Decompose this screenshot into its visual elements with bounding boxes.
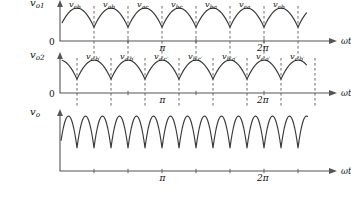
y-axis-arrowhead — [57, 109, 63, 116]
x-axis-title-vo: ωt — [341, 166, 351, 176]
segment-label-vo1-1: vab — [103, 0, 115, 10]
y-axis-label-vo1: vo1 — [30, 0, 45, 10]
segment-label-vo1-3: vbc — [171, 0, 183, 10]
y-axis-arrowhead — [57, 52, 63, 59]
x-axis-title-vo2: ωt — [341, 88, 351, 98]
x-axis-arrowhead — [329, 90, 337, 96]
waveform-trace-v-o2 — [62, 60, 306, 79]
x-axis-arrowhead — [329, 168, 337, 174]
zero-label-vo1: 0 — [49, 37, 55, 47]
x-tick-label-pi: π — [159, 173, 167, 183]
segment-label-vo2-3: vb′c′ — [188, 51, 203, 62]
y-axis-label-vo: vo — [30, 106, 41, 119]
x-tick-label-two-pi: 2π — [256, 95, 270, 105]
segment-label-vo2-0: vc′b′ — [86, 51, 101, 62]
x-tick-label-pi: π — [159, 95, 167, 105]
segment-label-vo2-6: vc′b′ — [290, 51, 305, 62]
zero-label-vo2: 0 — [49, 89, 55, 99]
segment-label-vo1-4: vba — [205, 0, 217, 10]
segment-label-vo1-0: vcb — [69, 0, 81, 10]
waveform-trace-v-o1 — [62, 8, 306, 27]
waveform-figure: vo10π2πωtvcbvabvacvbcvbavcavcbvo20π2πωtv… — [0, 0, 351, 201]
x-axis-arrowhead — [329, 38, 337, 44]
x-tick-label-two-pi: 2π — [256, 173, 270, 183]
waveform-trace-v-o — [61, 116, 308, 148]
segment-label-vo1-6: vcb — [273, 0, 285, 10]
y-axis-label-vo2: vo2 — [30, 49, 45, 62]
x-axis-title-vo1: ωt — [341, 36, 351, 46]
segment-label-vo1-2: vac — [137, 0, 149, 10]
waveform-svg: vo10π2πωtvcbvabvacvbcvbavcavcbvo20π2πωtv… — [0, 0, 351, 201]
x-tick-label-pi: π — [159, 43, 167, 53]
segment-label-vo1-5: vca — [239, 0, 251, 10]
y-axis-arrowhead — [57, 0, 63, 7]
